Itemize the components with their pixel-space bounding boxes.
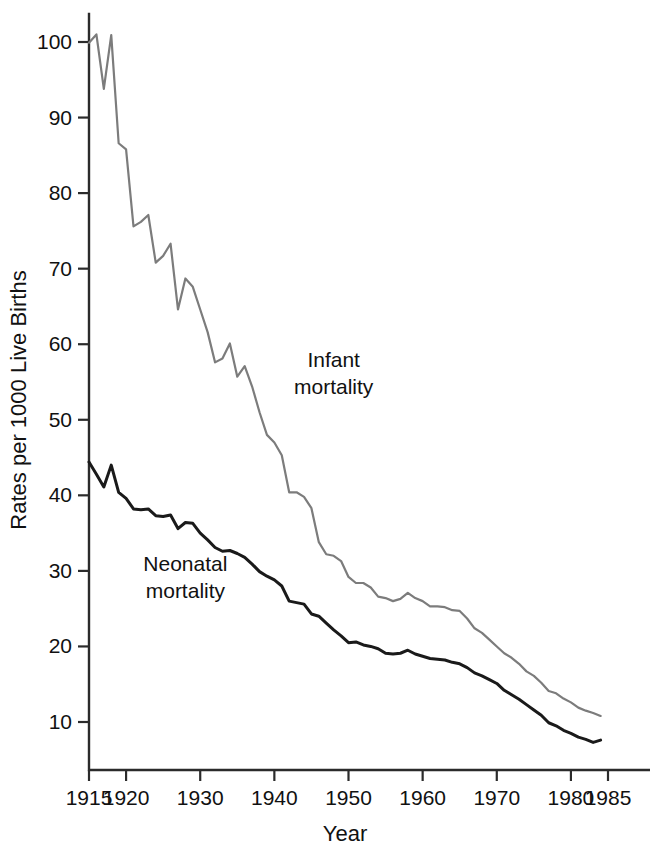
x-axis-tick-marks: [89, 770, 608, 781]
infant-neonatal-mortality-chart: 102030405060708090100 191519201930194019…: [0, 0, 650, 853]
annotation-line-1: Infant: [307, 348, 360, 371]
x-tick-label: 1940: [251, 786, 298, 809]
x-tick-label: 1920: [103, 786, 150, 809]
y-tick-label: 10: [49, 710, 72, 733]
x-tick-label: 1985: [585, 786, 632, 809]
annotation-line-2: mortality: [146, 579, 226, 602]
x-tick-label: 1960: [399, 786, 446, 809]
y-tick-label: 100: [37, 30, 72, 53]
x-axis-title: Year: [323, 821, 367, 846]
series-annotations-group: InfantmortalityNeonatalmortality: [143, 348, 373, 602]
annotation-line-2: mortality: [294, 375, 374, 398]
y-axis-tick-labels: 102030405060708090100: [37, 30, 72, 733]
y-axis-tick-marks: [78, 42, 89, 722]
x-tick-label: 1930: [177, 786, 224, 809]
annotation-line-1: Neonatal: [143, 552, 227, 575]
x-tick-label: 1950: [325, 786, 372, 809]
y-tick-label: 70: [49, 257, 72, 280]
chart-canvas: 102030405060708090100 191519201930194019…: [0, 0, 650, 853]
y-tick-label: 20: [49, 634, 72, 657]
series-line: [89, 462, 601, 742]
y-tick-label: 30: [49, 559, 72, 582]
series-annotation: Neonatalmortality: [143, 552, 227, 602]
y-tick-label: 90: [49, 106, 72, 129]
y-tick-label: 50: [49, 408, 72, 431]
y-axis-title: Rates per 1000 Live Births: [6, 270, 31, 529]
series-annotation: Infantmortality: [294, 348, 374, 398]
y-tick-label: 80: [49, 181, 72, 204]
y-tick-label: 60: [49, 332, 72, 355]
y-tick-label: 40: [49, 483, 72, 506]
x-tick-label: 1970: [473, 786, 520, 809]
x-axis-tick-labels: 191519201930194019501960197019801985: [66, 786, 632, 809]
